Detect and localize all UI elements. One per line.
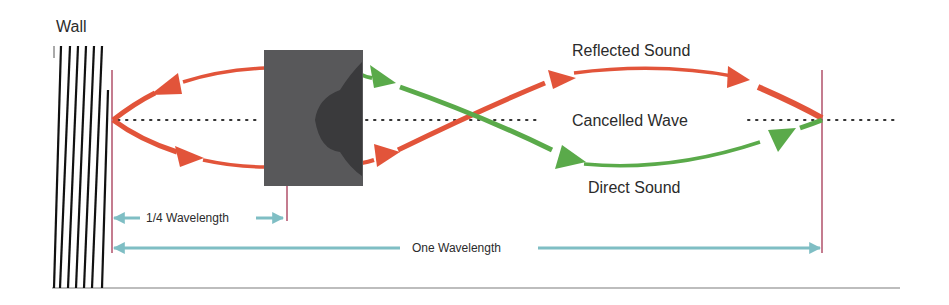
cancelled-wave-label: Cancelled Wave (572, 112, 688, 129)
arrow-upper-right-icon (548, 70, 576, 89)
reflected-path (113, 68, 822, 167)
diagram-canvas: Wall (0, 0, 949, 305)
arrow-speaker-lower-icon (374, 144, 400, 167)
arrow-speaker-upper-icon (370, 65, 396, 88)
reflected-sound-label: Reflected Sound (572, 42, 690, 59)
direct-sound-label: Direct Sound (588, 179, 681, 196)
wall-hatching (54, 46, 108, 288)
arrow-left-upper-icon (150, 73, 182, 95)
arrow-top-icon (727, 66, 750, 88)
quarter-wavelength-label: 1/4 Wavelength (146, 211, 229, 225)
speaker (264, 50, 363, 186)
one-wavelength-label: One Wavelength (412, 241, 501, 255)
wall-label: Wall (56, 18, 87, 35)
arrow-left-lower-icon (175, 146, 204, 167)
arrow-lower-icon (555, 145, 586, 169)
arrow-listener-icon (768, 128, 796, 152)
